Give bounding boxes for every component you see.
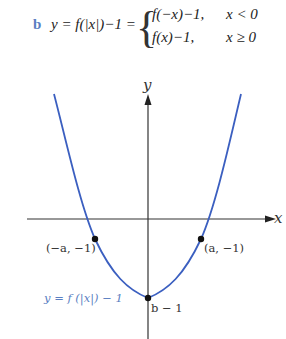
point-pos-a-label: (a, −1) [204, 241, 244, 255]
vertex-label: b − 1 [151, 301, 183, 315]
graph: x y (−a, −1) (a, −1) b − 1 y = f (|x|) −… [0, 0, 286, 339]
y-axis-arrow-icon [145, 94, 152, 105]
curve-label: y = f (|x|) − 1 [43, 291, 123, 306]
x-axis-label: x [274, 209, 283, 227]
point-neg-a-label: (−a, −1) [46, 241, 96, 255]
y-axis-label: y [142, 76, 152, 94]
